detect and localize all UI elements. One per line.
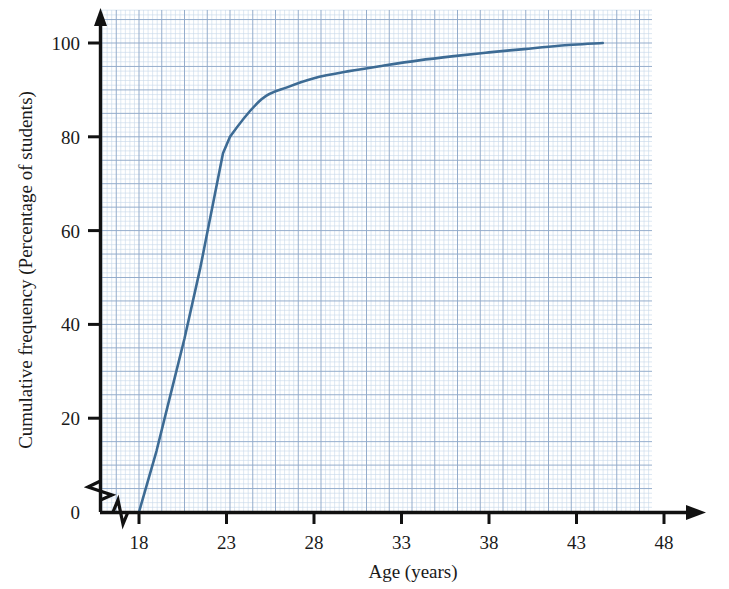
y-tick-label: 0 [71, 502, 81, 523]
cumulative-frequency-chart: 18232833384348 020406080100 Age (years) … [0, 0, 729, 589]
x-tick-label: 18 [130, 532, 149, 553]
figure-background [0, 0, 729, 589]
x-tick-label: 33 [392, 532, 411, 553]
y-tick-label: 20 [61, 408, 80, 429]
x-tick-label: 23 [217, 532, 236, 553]
x-axis-title: Age (years) [368, 561, 457, 583]
y-tick-label: 100 [52, 33, 81, 54]
y-tick-label: 80 [61, 127, 80, 148]
x-tick-label: 48 [655, 532, 674, 553]
y-tick-label: 40 [61, 314, 80, 335]
x-tick-label: 43 [567, 532, 586, 553]
x-tick-label: 38 [480, 532, 499, 553]
chart-figure: 18232833384348 020406080100 Age (years) … [0, 0, 729, 589]
x-tick-label: 28 [305, 532, 324, 553]
y-tick-label: 60 [61, 221, 80, 242]
y-axis-title: Cumulative frequency (Percentage of stud… [15, 91, 37, 449]
